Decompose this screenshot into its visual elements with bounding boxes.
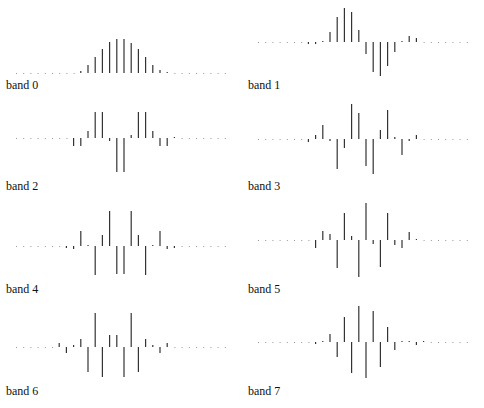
stem-dot xyxy=(265,139,266,140)
stem-dot xyxy=(210,73,211,74)
stem-dot xyxy=(265,342,266,343)
stem-dot xyxy=(45,246,46,247)
stem-dot xyxy=(189,347,190,348)
stem-dot xyxy=(460,42,461,43)
stem-dot xyxy=(66,73,67,74)
stem-dot xyxy=(445,240,446,241)
stem-dot xyxy=(287,42,288,43)
stem-dot xyxy=(30,347,31,348)
stem-dot xyxy=(280,240,281,241)
stem-dot xyxy=(218,138,219,139)
stem-dot xyxy=(280,42,281,43)
stem-dot xyxy=(424,139,425,140)
stem-dot xyxy=(203,138,204,139)
stem-dot xyxy=(38,73,39,74)
stem-dot xyxy=(45,138,46,139)
stem-dot xyxy=(189,138,190,139)
stem-dot xyxy=(287,240,288,241)
stem-dot xyxy=(23,138,24,139)
stem-dot xyxy=(189,246,190,247)
stem-dot xyxy=(431,42,432,43)
stem-dot xyxy=(52,246,53,247)
band-2-panel: band 2 xyxy=(0,100,242,202)
stem-dot xyxy=(452,240,453,241)
stem-dot xyxy=(258,342,259,343)
stem-dot xyxy=(203,347,204,348)
band-7-label: band 7 xyxy=(248,384,280,399)
stem-dot xyxy=(210,246,211,247)
stem-dot xyxy=(424,240,425,241)
stem-dot xyxy=(272,342,273,343)
stem-dot xyxy=(196,347,197,348)
stem-dot xyxy=(280,342,281,343)
stem-dot xyxy=(74,73,75,74)
stem-dot xyxy=(218,246,219,247)
band-3-label: band 3 xyxy=(248,179,280,194)
stem-dot xyxy=(52,73,53,74)
stem-dot xyxy=(182,347,183,348)
stem-dot xyxy=(218,347,219,348)
band-1-panel: band 1 xyxy=(242,0,484,102)
stem-dot xyxy=(460,139,461,140)
stem-dot xyxy=(174,347,175,348)
stem-dot xyxy=(438,342,439,343)
stem-dot xyxy=(467,342,468,343)
stem-dot xyxy=(210,138,211,139)
stem-dot xyxy=(272,139,273,140)
stem-dot xyxy=(210,347,211,348)
stem-dot xyxy=(23,347,24,348)
stem-dot xyxy=(294,342,295,343)
stem-dot xyxy=(445,42,446,43)
stem-dot xyxy=(294,139,295,140)
stem-dot xyxy=(66,138,67,139)
stem-dot xyxy=(52,138,53,139)
stem-dot xyxy=(467,42,468,43)
stem-dot xyxy=(258,139,259,140)
stem-dot xyxy=(301,342,302,343)
stem-dot xyxy=(225,73,226,74)
stem-dot xyxy=(52,347,53,348)
band-5-label: band 5 xyxy=(248,282,280,297)
stem-dot xyxy=(287,342,288,343)
stem-dot xyxy=(445,342,446,343)
stem-dot xyxy=(59,73,60,74)
stem-dot xyxy=(225,246,226,247)
stem-dot xyxy=(467,240,468,241)
stem-dot xyxy=(431,342,432,343)
band-0-label: band 0 xyxy=(6,78,38,93)
stem-dot xyxy=(23,73,24,74)
stem-dot xyxy=(431,139,432,140)
stem-dot xyxy=(308,342,309,343)
stem-dot xyxy=(301,139,302,140)
band-4-panel: band 4 xyxy=(0,205,242,307)
stem-dot xyxy=(265,240,266,241)
stem-dot xyxy=(438,139,439,140)
stem-dot xyxy=(294,42,295,43)
band-7-panel: band 7 xyxy=(242,300,484,402)
stem-dot xyxy=(189,73,190,74)
stem-dot xyxy=(203,246,204,247)
stem-dot xyxy=(438,42,439,43)
band-4-label: band 4 xyxy=(6,282,38,297)
stem-dot xyxy=(280,139,281,140)
stem-dot xyxy=(460,240,461,241)
stem-dot xyxy=(16,347,17,348)
stem-dot xyxy=(225,138,226,139)
stem-dot xyxy=(196,246,197,247)
stem-dot xyxy=(182,73,183,74)
stem-dot xyxy=(196,73,197,74)
stem-dot xyxy=(431,240,432,241)
stem-dot xyxy=(16,73,17,74)
stem-dot xyxy=(272,42,273,43)
stem-dot xyxy=(424,42,425,43)
stem-dot xyxy=(38,138,39,139)
stem-dot xyxy=(294,240,295,241)
stem-dot xyxy=(272,240,273,241)
stem-dot xyxy=(30,138,31,139)
stem-dot xyxy=(174,73,175,74)
band-1-label: band 1 xyxy=(248,78,280,93)
stem-dot xyxy=(59,246,60,247)
stem-dot xyxy=(258,240,259,241)
stem-dot xyxy=(16,246,17,247)
stem-dot xyxy=(16,138,17,139)
